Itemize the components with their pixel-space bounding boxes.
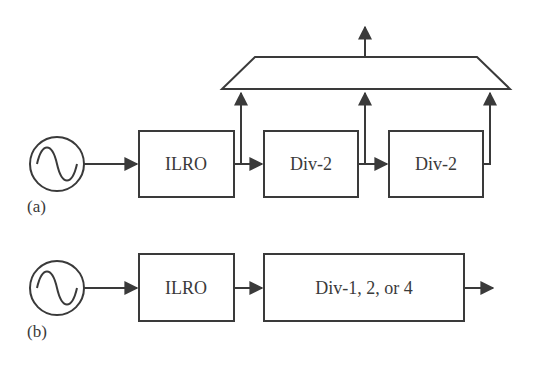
div2-2-tap-arrow	[483, 93, 490, 164]
caption-a: (a)	[27, 197, 46, 216]
div-1-2-4-label: Div-1, 2, or 4	[315, 278, 413, 298]
multiplexer-trapezoid	[222, 57, 510, 89]
caption-b: (b)	[27, 322, 47, 341]
sine-source-icon	[30, 137, 84, 191]
diagram-part-a: ILRO Div-2 Div-2 (a)	[27, 27, 510, 216]
ilro-label-b: ILRO	[165, 278, 207, 298]
ilro-label: ILRO	[165, 154, 207, 174]
sine-source-icon	[30, 261, 84, 315]
diagram-part-b: ILRO Div-1, 2, or 4 (b)	[27, 254, 493, 341]
div2-label-1: Div-2	[290, 154, 332, 174]
block-diagram: ILRO Div-2 Div-2 (a) ILRO Div-1, 2, or 4	[0, 0, 535, 365]
div2-label-2: Div-2	[415, 154, 457, 174]
